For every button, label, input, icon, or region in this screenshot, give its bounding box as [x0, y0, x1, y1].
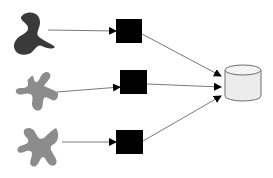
- database-cylinder-icon: [225, 65, 261, 101]
- diagram-svg: [0, 0, 273, 178]
- arrow-box1-to-database: [142, 34, 221, 76]
- arrow-source2-to-box2: [57, 87, 120, 92]
- processor-box-3: [116, 130, 143, 154]
- arrow-box3-to-database: [143, 96, 221, 141]
- processor-box-2: [120, 70, 147, 94]
- source-shape-gray-splat-2: [17, 128, 58, 167]
- source-shape-dark-blob: [14, 12, 55, 54]
- processor-box-1: [116, 19, 142, 43]
- diagram-canvas: [0, 0, 273, 178]
- arrow-box2-to-database: [147, 84, 221, 87]
- source-shape-gray-splat-1: [16, 72, 58, 111]
- arrow-source1-to-box1: [48, 30, 116, 31]
